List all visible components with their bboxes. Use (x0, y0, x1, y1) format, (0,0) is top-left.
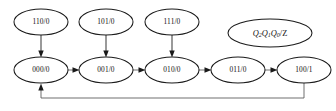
state-node-001[interactable]: 001/0 (79, 57, 133, 83)
legend-node: Q2Q1Q0/Z (228, 19, 312, 47)
fsm-canvas: 110/0 101/0 111/0 Q2Q1Q0/Z 000/0 001/0 (0, 0, 336, 111)
transition-101-to-001 (103, 35, 108, 58)
legend-output: /Z (280, 28, 287, 37)
state-node-100[interactable]: 100/1 (277, 57, 331, 83)
state-node-110[interactable]: 110/0 (14, 9, 68, 35)
legend-label: Q2Q1Q0/Z (253, 28, 288, 37)
transition-011-to-100 (265, 67, 278, 72)
state-label-000: 000/0 (32, 65, 50, 74)
state-label-110: 110/0 (32, 17, 49, 26)
transition-111-to-010 (169, 35, 174, 58)
state-label-001: 001/0 (97, 65, 115, 74)
state-label-100: 100/1 (295, 65, 313, 74)
state-node-011[interactable]: 011/0 (211, 57, 265, 83)
transition-110-to-000 (38, 35, 43, 58)
state-node-111[interactable]: 111/0 (145, 9, 199, 35)
state-label-111: 111/0 (164, 17, 181, 26)
state-node-010[interactable]: 010/0 (145, 57, 199, 83)
state-label-011: 011/0 (229, 65, 246, 74)
transition-010-to-011 (199, 67, 212, 72)
transition-001-to-010 (133, 67, 146, 72)
state-node-101[interactable]: 101/0 (79, 9, 133, 35)
state-diagram: 110/0 101/0 111/0 Q2Q1Q0/Z 000/0 001/0 (0, 0, 336, 111)
transition-100-to-000-feedback (38, 83, 304, 98)
state-label-101: 101/0 (97, 17, 115, 26)
state-label-010: 010/0 (163, 65, 181, 74)
state-node-000[interactable]: 000/0 (14, 57, 68, 83)
transition-000-to-001 (68, 67, 80, 72)
